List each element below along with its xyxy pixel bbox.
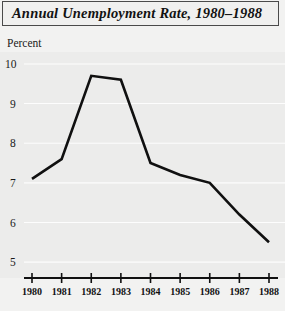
x-tick-label: 1985 — [170, 286, 190, 297]
y-tick-label: 6 — [10, 217, 16, 229]
y-tick-label: 10 — [5, 58, 17, 70]
x-tick-label: 1980 — [22, 286, 42, 297]
x-tick-label: 1986 — [200, 286, 220, 297]
line-chart: 1098765 19801981198219831984198519861987… — [0, 52, 285, 311]
chart-title-box: Annual Unemployment Rate, 1980–1988 — [2, 1, 279, 26]
chart-container: 1098765 19801981198219831984198519861987… — [0, 52, 285, 311]
x-tick-label: 1981 — [52, 286, 72, 297]
x-tick-label: 1987 — [229, 286, 249, 297]
x-tick-label: 1984 — [141, 286, 161, 297]
page-title: Annual Unemployment Rate, 1980–1988 — [12, 5, 262, 22]
y-tick-label: 8 — [10, 137, 16, 149]
y-tick-label: 9 — [10, 98, 16, 110]
x-tick-label: 1988 — [259, 286, 279, 297]
plot-background — [0, 52, 285, 278]
y-axis-label: Percent — [7, 37, 41, 49]
x-tick-label: 1983 — [111, 286, 131, 297]
x-tick-labels: 198019811982198319841985198619871988 — [22, 286, 279, 297]
y-tick-label: 7 — [10, 177, 16, 189]
y-tick-label: 5 — [10, 256, 16, 268]
x-tick-label: 1982 — [81, 286, 101, 297]
